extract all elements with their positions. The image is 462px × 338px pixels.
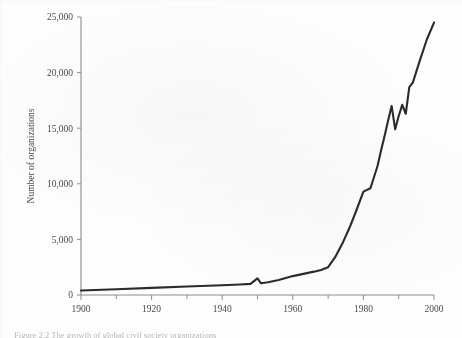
figure-container: 05,00010,00015,00020,00025,0001900192019… [0,0,462,338]
x-tick-label: 1900 [72,304,91,314]
y-tick-label: 20,000 [47,68,73,78]
y-tick-label: 25,000 [47,12,73,22]
y-tick-label: 0 [68,290,73,300]
data-series-line [81,23,434,291]
line-chart: 05,00010,00015,00020,00025,0001900192019… [0,0,462,338]
y-axis-title: Number of organizations [26,108,36,203]
figure-caption: Figure 2.2 The growth of global civil so… [14,330,454,338]
y-tick-label: 5,000 [52,235,74,245]
x-tick-label: 2000 [425,304,444,314]
y-tick-label: 15,000 [47,124,73,134]
x-tick-label: 1940 [213,304,232,314]
y-tick-label: 10,000 [47,179,73,189]
axis-lines [81,17,434,295]
x-tick-label: 1980 [354,304,373,314]
x-tick-label: 1960 [283,304,302,314]
x-tick-label: 1920 [142,304,161,314]
